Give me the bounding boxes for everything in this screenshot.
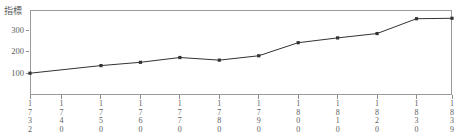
series-line bbox=[30, 18, 452, 73]
data-point-marker bbox=[139, 61, 142, 64]
data-point-marker bbox=[257, 54, 260, 57]
data-point-marker bbox=[99, 64, 102, 67]
data-point-marker bbox=[415, 17, 418, 20]
data-point-marker bbox=[336, 36, 339, 39]
data-point-marker bbox=[178, 56, 181, 59]
data-series-layer bbox=[0, 0, 465, 139]
data-point-marker bbox=[375, 32, 378, 35]
data-point-marker bbox=[297, 41, 300, 44]
data-point-marker bbox=[28, 72, 31, 75]
data-point-marker bbox=[450, 17, 453, 20]
line-chart-figure: 指標 100200300 173217401750176017701780179… bbox=[0, 0, 465, 139]
data-point-marker bbox=[218, 59, 221, 62]
